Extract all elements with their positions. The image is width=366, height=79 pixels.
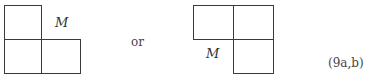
figure-b-cell-top-left (193, 5, 234, 40)
connector-text: or (131, 36, 144, 48)
figure-b-cell-top-right (233, 5, 274, 40)
figure-a-label: M (55, 16, 68, 29)
figure-a-cell-bottom-left (4, 39, 42, 74)
figure-b-cell-bottom-right (233, 39, 274, 74)
equation-number: (9a,b) (328, 57, 364, 69)
figure-a-cell-bottom-right (41, 39, 81, 74)
figure-a-cell-top-left (4, 5, 42, 40)
figure-b-label: M (206, 47, 219, 60)
